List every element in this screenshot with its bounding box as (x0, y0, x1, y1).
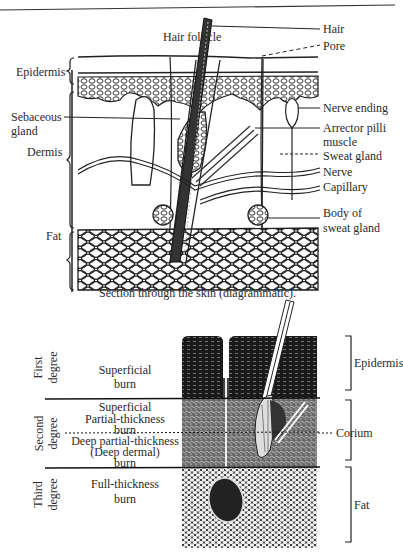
label-first: First (32, 348, 45, 388)
label-third-degree: degree (47, 475, 60, 515)
label-full-thickness-burn: burn (60, 493, 190, 506)
label-dp-3: burn (55, 457, 195, 470)
label-superficial: Superficial (60, 364, 190, 377)
label-full-thickness: Full-thickness (60, 478, 190, 491)
label-layer-fat: Fat (354, 499, 369, 512)
label-layer-corium: Corium (336, 427, 373, 440)
label-third: Third (32, 475, 45, 515)
label-first-degree: degree (47, 348, 60, 388)
label-layer-epidermis: Epidermis (354, 357, 403, 370)
label-superficial-burn: burn (60, 378, 190, 391)
label-second: Second (33, 409, 46, 459)
